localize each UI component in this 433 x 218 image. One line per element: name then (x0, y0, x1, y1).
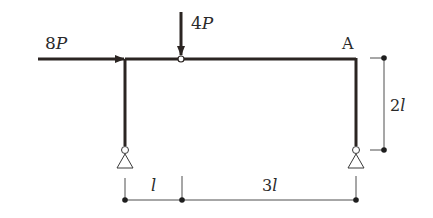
frame (125, 58, 356, 146)
frame-diagram: 8P 4P A 2l l 3l (0, 0, 433, 218)
height-label: 2l (390, 96, 405, 115)
point-a-label: A (341, 34, 354, 53)
span-right-label: 3l (262, 176, 277, 195)
height-dimension (370, 55, 387, 153)
right-pin-support-icon (348, 147, 364, 169)
left-pin-support-icon (117, 147, 133, 169)
load-8p-label: 8P (45, 33, 68, 53)
hinge-icon (178, 56, 184, 62)
span-left-label: l (151, 176, 156, 195)
load-4p-label: 4P (191, 13, 214, 33)
span-dimension (122, 176, 359, 203)
